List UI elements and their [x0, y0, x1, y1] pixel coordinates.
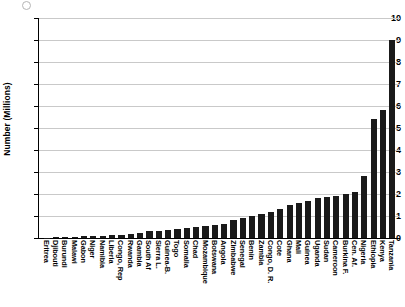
bar: [315, 198, 321, 238]
x-axis-label: Zimbabwe: [228, 240, 237, 307]
scan-artifact-mark: [22, 1, 31, 10]
x-axis-label-text: Cen. Af.: [350, 240, 357, 267]
bar: [118, 235, 124, 238]
bar-slot: [294, 18, 303, 238]
bar: [193, 227, 199, 238]
x-axis-label: Togo: [172, 240, 181, 307]
bar-slot: [201, 18, 210, 238]
x-axis-label-text: Chad: [191, 240, 198, 258]
bar-slot: [182, 18, 191, 238]
x-axis-label-text: Zambia: [257, 240, 264, 265]
bars-container: [39, 18, 400, 238]
x-axis-label: Uganda: [312, 240, 321, 307]
x-axis-label-text: Mozambique: [201, 240, 208, 284]
x-axis-label: Guinea-B.: [162, 240, 171, 307]
bar: [100, 236, 106, 238]
bar: [72, 237, 78, 238]
x-axis-label-text: Eritrea: [42, 240, 49, 263]
bar: [128, 234, 134, 238]
bar-slot: [229, 18, 238, 238]
x-axis-label: Botswana: [209, 240, 218, 307]
x-axis-label-text: Togo: [173, 240, 180, 257]
x-axis-label: Rwanda: [125, 240, 134, 307]
x-axis-label: Liberia: [106, 240, 115, 307]
bar-slot: [89, 18, 98, 238]
y-axis-title-text: Number (Millions): [2, 82, 12, 155]
x-axis-label: Mali: [293, 240, 302, 307]
x-axis-label: Namibia: [97, 240, 106, 307]
x-axis-label: Congo, Rep: [116, 240, 125, 307]
bar-slot: [173, 18, 182, 238]
bar-slot: [79, 18, 88, 238]
x-axis-label: Eritrea: [41, 240, 50, 307]
x-axis-label: Congo, D. R.: [265, 240, 274, 307]
x-axis-label: Guinea: [303, 240, 312, 307]
bar: [146, 231, 152, 238]
bar: [174, 229, 180, 238]
x-axis-labels: EritreaDjiboutiBurundiMalawiGabonNigerNa…: [38, 240, 399, 307]
bar: [380, 110, 386, 238]
bar-slot: [135, 18, 144, 238]
x-axis-label-text: Somalia: [182, 240, 189, 268]
x-axis-label: Nigeria: [359, 240, 368, 307]
x-axis-label-text: Kenya: [378, 240, 385, 262]
x-axis-label: Ghana: [284, 240, 293, 307]
x-axis-label-text: Cameroon: [332, 240, 339, 276]
bar-slot: [313, 18, 322, 238]
bar: [389, 40, 395, 238]
plot-area: [38, 18, 400, 239]
bar: [343, 194, 349, 238]
x-axis-label: Kenya: [377, 240, 386, 307]
bar-slot: [248, 18, 257, 238]
bar-slot: [350, 18, 359, 238]
bar-chart: Number (Millions) 109876543210 EritreaDj…: [0, 0, 405, 307]
bar-slot: [238, 18, 247, 238]
x-axis-label-text: Cote: [276, 240, 283, 256]
x-axis-label: Burkina F.: [340, 240, 349, 307]
x-axis-label-text: Guinea: [304, 240, 311, 264]
x-axis-label-text: Burundi: [61, 240, 68, 268]
bar: [277, 209, 283, 238]
bar: [287, 205, 293, 238]
x-axis-label: Tanzania: [387, 240, 396, 307]
x-axis-label: Mozambique: [200, 240, 209, 307]
x-axis-label-text: Namibia: [98, 240, 105, 268]
x-axis-label: Gambia: [134, 240, 143, 307]
bar: [62, 237, 68, 238]
bar: [324, 197, 330, 238]
bar: [296, 203, 302, 238]
bar: [361, 176, 367, 238]
x-axis-label: Chad: [191, 240, 200, 307]
bar-slot: [369, 18, 378, 238]
y-axis-title: Number (Millions): [0, 0, 14, 238]
bar: [352, 192, 358, 238]
bar-slot: [341, 18, 350, 238]
x-axis-label-text: Djibouti: [51, 240, 58, 267]
bar: [240, 218, 246, 238]
bar-slot: [61, 18, 70, 238]
x-axis-label-text: Zimbabwe: [229, 240, 236, 275]
x-axis-label: Gabon: [78, 240, 87, 307]
bar: [333, 196, 339, 238]
x-axis-label-text: Benin: [248, 240, 255, 260]
x-axis-label-text: Gambia: [135, 240, 142, 267]
bar: [109, 235, 115, 238]
bar: [81, 236, 87, 238]
bar-slot: [220, 18, 229, 238]
bar-slot: [360, 18, 369, 238]
bar: [221, 224, 227, 238]
bar-slot: [117, 18, 126, 238]
bar-slot: [322, 18, 331, 238]
bar-slot: [388, 18, 397, 238]
x-axis-label-text: Guinea-B.: [163, 240, 170, 274]
x-axis-label: Cameroon: [331, 240, 340, 307]
x-axis-label-text: Congo, D. R.: [266, 240, 273, 283]
bar-slot: [210, 18, 219, 238]
bar-slot: [285, 18, 294, 238]
x-axis-label: Zambia: [256, 240, 265, 307]
x-axis-label-text: Senegal: [238, 240, 245, 268]
x-axis-label: Malawi: [69, 240, 78, 307]
x-axis-label-text: Tanzania: [388, 240, 395, 270]
bar-slot: [163, 18, 172, 238]
bar-slot: [332, 18, 341, 238]
